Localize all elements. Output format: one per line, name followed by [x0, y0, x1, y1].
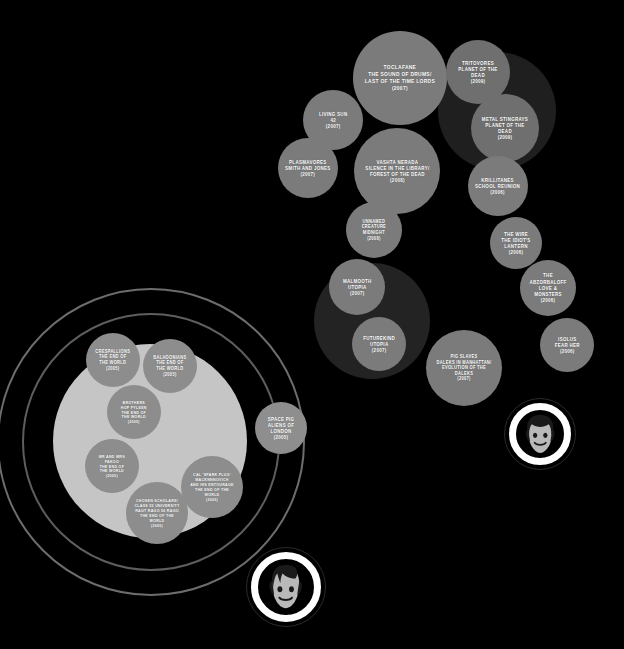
- bubble-crespallions[interactable]: CRESPALLIONS THE END OF THE WORLD (2005): [86, 333, 140, 387]
- bubble-futurekind[interactable]: FUTUREKIND UTOPIA (2007): [352, 317, 406, 371]
- doctor-badge-left[interactable]: [251, 552, 321, 622]
- bubble-brothers-hop-pyleen[interactable]: BROTHERS HOP PYLEEN THE END OF THE WORLD…: [107, 385, 161, 439]
- bubble-map-canvas: TOCLAFANE THE SOUND OF DRUMS/ LAST OF TH…: [0, 0, 624, 649]
- bubble-label-plasmavores: PLASMAVORES SMITH AND JONES (2007): [283, 159, 334, 178]
- bubble-label-abzorbaloff: THE ABZORBALOFF LOVE & MONSTERS (2006): [523, 272, 572, 303]
- bubble-chosen-scholars[interactable]: CHOSEN SCHOLARS/ CLASS 55 UNIVERSITY RAG…: [126, 482, 188, 544]
- bubble-plasmavores[interactable]: PLASMAVORES SMITH AND JONES (2007): [278, 138, 338, 198]
- bubble-mr-and-mrs-pakoo[interactable]: MR AND MRS PAKOO THE END OF THE WORLD (2…: [85, 439, 139, 493]
- bubble-label-chosen-scholars: CHOSEN SCHOLARS/ CLASS 55 UNIVERSITY RAG…: [130, 498, 185, 528]
- bubble-space-pig[interactable]: SPACE PIG ALIENS OF LONDON (2005): [255, 402, 307, 454]
- bubble-the-wire[interactable]: THE WIRE THE IDIOT'S LANTERN (2006): [490, 217, 542, 269]
- bubble-pig-slaves[interactable]: PIG SLAVES DALEKS IN MANHATTAN/ EVOLUTIO…: [426, 330, 502, 406]
- doctor-badge-right[interactable]: [509, 403, 571, 465]
- bubble-metal-stingrays[interactable]: METAL STINGRAYS PLANET OF THE DEAD (2009…: [471, 94, 539, 162]
- bubble-label-metal-stingrays: METAL STINGRAYS PLANET OF THE DEAD (2009…: [475, 116, 535, 141]
- bubble-malmooth[interactable]: MALMOOTH UTOPIA (2007): [329, 259, 385, 315]
- bubble-label-malmooth: MALMOOTH UTOPIA (2007): [340, 278, 374, 297]
- bubble-label-vashta-nerada: VASHTA NERADA SILENCE IN THE LIBRARY/ FO…: [362, 159, 431, 184]
- bubble-isolus[interactable]: ISOLUS FEAR HER (2006): [540, 318, 594, 372]
- bubble-cal-spark-plug[interactable]: CAL 'SPARK PLUG' MACKNNNOVICH AND HIS EN…: [181, 456, 243, 518]
- bubble-abzorbaloff[interactable]: THE ABZORBALOFF LOVE & MONSTERS (2006): [520, 260, 576, 316]
- bubble-label-crespallions: CRESPALLIONS THE END OF THE WORLD (2005): [93, 349, 133, 371]
- bubble-vashta-nerada[interactable]: VASHTA NERADA SILENCE IN THE LIBRARY/ FO…: [354, 128, 440, 214]
- bubble-label-space-pig: SPACE PIG ALIENS OF LONDON (2005): [258, 416, 304, 441]
- bubble-balhoonians[interactable]: BALHOONIANS THE END OF THE WORLD (2005): [143, 339, 197, 393]
- bubble-label-pig-slaves: PIG SLAVES DALEKS IN MANHATTAN/ EVOLUTIO…: [431, 354, 498, 382]
- bubble-label-cal-spark-plug: CAL 'SPARK PLUG' MACKNNNOVICH AND HIS EN…: [185, 472, 240, 502]
- bubble-label-krillitanes: KRILLITANES SCHOOL REUNION (2006): [473, 177, 523, 196]
- bubble-krillitanes[interactable]: KRILLITANES SCHOOL REUNION (2006): [468, 156, 528, 216]
- bubble-label-unnamed-creature: UNNAMED CREATURE MIDNIGHT (2008): [359, 219, 389, 241]
- doctor-face-icon: [521, 413, 559, 458]
- doctor-face-icon: [264, 563, 307, 613]
- bubble-label-brothers-hop-pyleen: BROTHERS HOP PYLEEN THE END OF THE WORLD…: [118, 400, 149, 425]
- bubble-label-living-sun: LIVING SUN 42 (2007): [316, 111, 350, 130]
- bubble-label-isolus: ISOLUS FEAR HER (2006): [552, 336, 582, 355]
- bubble-toclafane[interactable]: TOCLAFANE THE SOUND OF DRUMS/ LAST OF TH…: [353, 31, 447, 125]
- bubble-unnamed-creature[interactable]: UNNAMED CREATURE MIDNIGHT (2008): [346, 202, 402, 258]
- bubble-label-futurekind: FUTUREKIND UTOPIA (2007): [360, 335, 397, 354]
- bubble-label-balhoonians: BALHOONIANS THE END OF THE WORLD (2005): [151, 355, 189, 377]
- bubble-label-tritovores: TRITOVORES PLANET OF THE DEAD (2009): [450, 60, 506, 85]
- bubble-label-the-wire: THE WIRE THE IDIOT'S LANTERN (2006): [493, 231, 539, 256]
- bubble-label-toclafane: TOCLAFANE THE SOUND OF DRUMS/ LAST OF TH…: [362, 64, 437, 91]
- bubble-label-mr-and-mrs-pakoo: MR AND MRS PAKOO THE END OF THE WORLD (2…: [96, 454, 127, 479]
